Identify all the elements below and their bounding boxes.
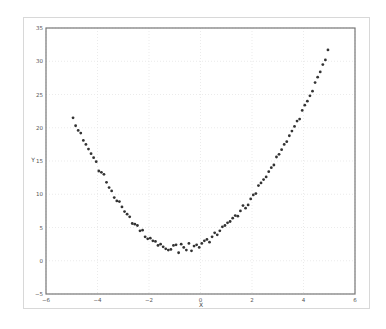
grid-lines [46, 28, 355, 294]
x-tick-label: 6 [353, 297, 357, 303]
data-point [164, 247, 167, 250]
data-point [275, 156, 278, 159]
data-point [280, 148, 283, 151]
data-point [180, 243, 183, 246]
data-point [234, 214, 237, 217]
data-point [172, 244, 175, 247]
data-point [123, 210, 126, 213]
data-point [198, 246, 201, 249]
data-point [254, 192, 257, 195]
data-point [249, 198, 252, 201]
data-point [87, 148, 90, 151]
data-point [82, 139, 85, 142]
data-point [103, 173, 106, 176]
data-point [118, 200, 121, 203]
y-tick-label: 5 [40, 225, 44, 231]
data-point [224, 224, 227, 227]
y-tick-label: 35 [36, 25, 43, 31]
data-point [77, 129, 80, 132]
data-point [177, 251, 180, 254]
data-point [267, 170, 270, 173]
data-point [74, 124, 77, 127]
data-point [154, 240, 157, 243]
y-axis-ticks: −505101520253035 [35, 25, 44, 297]
data-point [216, 233, 219, 236]
data-point [208, 241, 211, 244]
data-point [291, 130, 294, 133]
data-point [128, 215, 131, 218]
data-point [95, 160, 98, 163]
data-point [306, 100, 309, 103]
data-point [188, 242, 191, 245]
data-point [257, 184, 260, 187]
data-point [113, 196, 116, 199]
data-point [327, 49, 330, 52]
data-point [175, 243, 178, 246]
data-point [242, 204, 245, 207]
data-point [272, 164, 275, 167]
data-point [157, 244, 160, 247]
data-point [206, 238, 209, 241]
x-axis-label: X [199, 301, 203, 308]
y-tick-label: 25 [36, 92, 43, 98]
data-point [211, 235, 214, 238]
data-point [213, 231, 216, 234]
data-point [141, 229, 144, 232]
data-point [221, 225, 224, 228]
y-tick-label: −5 [35, 291, 44, 297]
data-point [218, 229, 221, 232]
data-point [149, 237, 152, 240]
data-point [262, 178, 265, 181]
data-point [72, 116, 75, 119]
data-point [270, 166, 273, 169]
data-point [231, 217, 234, 220]
figure: −6−4−20246 −505101520253035 X Y [0, 0, 386, 329]
data-point [298, 118, 301, 121]
data-point [90, 152, 93, 155]
data-point [288, 134, 291, 137]
data-point [303, 104, 306, 107]
data-point [247, 203, 250, 206]
data-point [108, 186, 111, 189]
data-point [79, 132, 82, 135]
data-point [278, 153, 281, 156]
data-point [200, 242, 203, 245]
y-axis-label: Y [30, 156, 35, 163]
data-point [301, 109, 304, 112]
data-point [296, 120, 299, 123]
data-point [309, 94, 312, 97]
data-point [316, 76, 319, 79]
data-point [159, 243, 162, 246]
data-point [265, 176, 268, 179]
data-point [283, 143, 286, 146]
y-tick-label: 30 [36, 58, 43, 64]
data-point [185, 249, 188, 252]
data-point [169, 248, 172, 251]
x-tick-label: 2 [250, 297, 254, 303]
data-point [285, 140, 288, 143]
data-point [136, 224, 139, 227]
x-tick-label: −6 [42, 297, 51, 303]
data-point [236, 215, 239, 218]
data-point [105, 181, 108, 184]
y-tick-label: 10 [36, 191, 43, 197]
scatter-chart: −6−4−20246 −505101520253035 X Y [0, 0, 386, 329]
data-point [239, 209, 242, 212]
data-point [92, 156, 95, 159]
data-point [260, 182, 263, 185]
x-tick-label: −2 [145, 297, 153, 303]
y-tick-label: 15 [36, 158, 43, 164]
data-point [115, 200, 118, 203]
data-point [151, 239, 154, 242]
data-point [97, 170, 100, 173]
data-point [324, 59, 327, 62]
data-point [144, 235, 147, 238]
data-point [321, 63, 324, 66]
data-point [311, 90, 314, 93]
data-point [182, 246, 185, 249]
data-point [162, 245, 165, 248]
y-tick-label: 0 [40, 258, 44, 264]
x-tick-label: 4 [302, 297, 306, 303]
data-point [190, 249, 193, 252]
x-tick-label: −4 [93, 297, 102, 303]
